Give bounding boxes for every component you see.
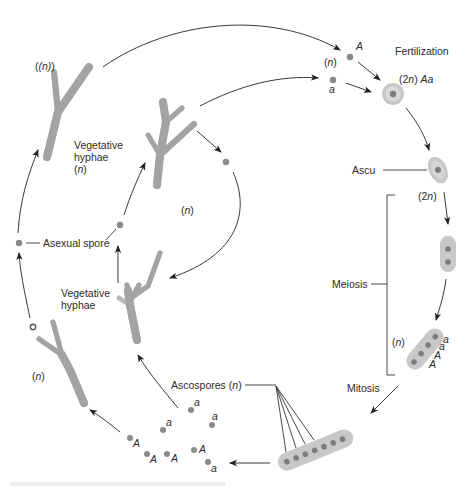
- meiosis-bracket: [387, 195, 395, 375]
- label-ascus-ploidy: (2n): [418, 190, 437, 202]
- arrow-conidium-to-veg: [170, 172, 240, 278]
- label-meiosis-ploidy: (n): [392, 336, 405, 348]
- fungal-life-cycle-diagram: ((n)) Vegetative hyphae (n) (n) Fertiliz…: [0, 0, 475, 487]
- arrow-gamete-a-to-zygote: [346, 83, 371, 92]
- label-top-left-ploidy: ((n)): [35, 60, 55, 72]
- label-zygote: (2n) Aa: [399, 73, 434, 85]
- label-hyphae-ploidy: (n): [74, 163, 87, 175]
- asexual-spore-middle: [117, 222, 123, 228]
- svg-text:a: a: [212, 410, 218, 422]
- svg-text:a: a: [211, 462, 217, 474]
- eight-spore-ascus: [275, 427, 356, 474]
- arrow-asexual-to-mid-hypha: [124, 163, 145, 215]
- svg-text:A: A: [170, 452, 178, 464]
- label-lower-vegetative: Vegetative: [61, 287, 110, 299]
- label-gamete-A: A: [355, 40, 363, 52]
- asexual-spore-left: [16, 240, 22, 246]
- germinating-spore: [30, 324, 35, 329]
- arrow-zygote-to-ascus: [406, 108, 429, 150]
- binucleate-ascus: [440, 236, 456, 272]
- ascus-cell: [424, 154, 452, 187]
- svg-text:A: A: [132, 437, 140, 449]
- arrow-hypha-to-gamete-a: [200, 77, 318, 106]
- label-meiosis: Meiosis: [332, 278, 368, 290]
- arrow-hypha-to-gamete-A: [103, 25, 340, 67]
- ascospores-pointer-lines: [245, 385, 314, 452]
- svg-text:a: a: [166, 416, 172, 428]
- label-gametes-ploidy: (n): [324, 56, 337, 68]
- label-bottom-left-ploidy: (n): [32, 370, 45, 382]
- caption-strip: [10, 482, 225, 486]
- label-vegetative: Vegetative: [74, 139, 123, 151]
- arrow-ascus-to-binucleate: [444, 192, 448, 224]
- label-gamete-a: a: [329, 83, 335, 95]
- svg-text:A: A: [149, 453, 157, 465]
- vegetative-hypha-lower: [119, 253, 160, 340]
- svg-text:A: A: [428, 358, 436, 370]
- label-asexual-spore: Asexual spore: [43, 237, 110, 249]
- conidium: [223, 159, 229, 165]
- label-fertilization: Fertilization: [395, 45, 449, 57]
- arrow-gamete-A-to-zygote: [358, 62, 380, 80]
- label-ascus: Ascu: [352, 164, 376, 176]
- label-ascospores: Ascospores (n): [171, 379, 242, 391]
- label-lower-hyphae: hyphae: [61, 299, 96, 311]
- vegetative-hypha-middle: [148, 102, 194, 185]
- gamete-A: [347, 54, 353, 60]
- arrow-hypha-to-conidium: [197, 131, 221, 152]
- zygote-cell: [382, 83, 404, 105]
- arrow-spores-to-hypha-left: [90, 410, 120, 432]
- arrow-to-asexual-spore-left: [19, 253, 30, 318]
- svg-text:A: A: [198, 443, 206, 455]
- vegetative-hypha-bottom-left: [39, 322, 84, 403]
- label-inner-ploidy: (n): [181, 204, 194, 216]
- arrow-binucleate-to-tetranucleate: [436, 279, 446, 320]
- label-hyphae: hyphae: [74, 151, 109, 163]
- svg-text:a: a: [194, 396, 200, 408]
- label-mitosis: Mitosis: [347, 382, 380, 394]
- arrow-asexual-to-top-hypha: [18, 150, 38, 233]
